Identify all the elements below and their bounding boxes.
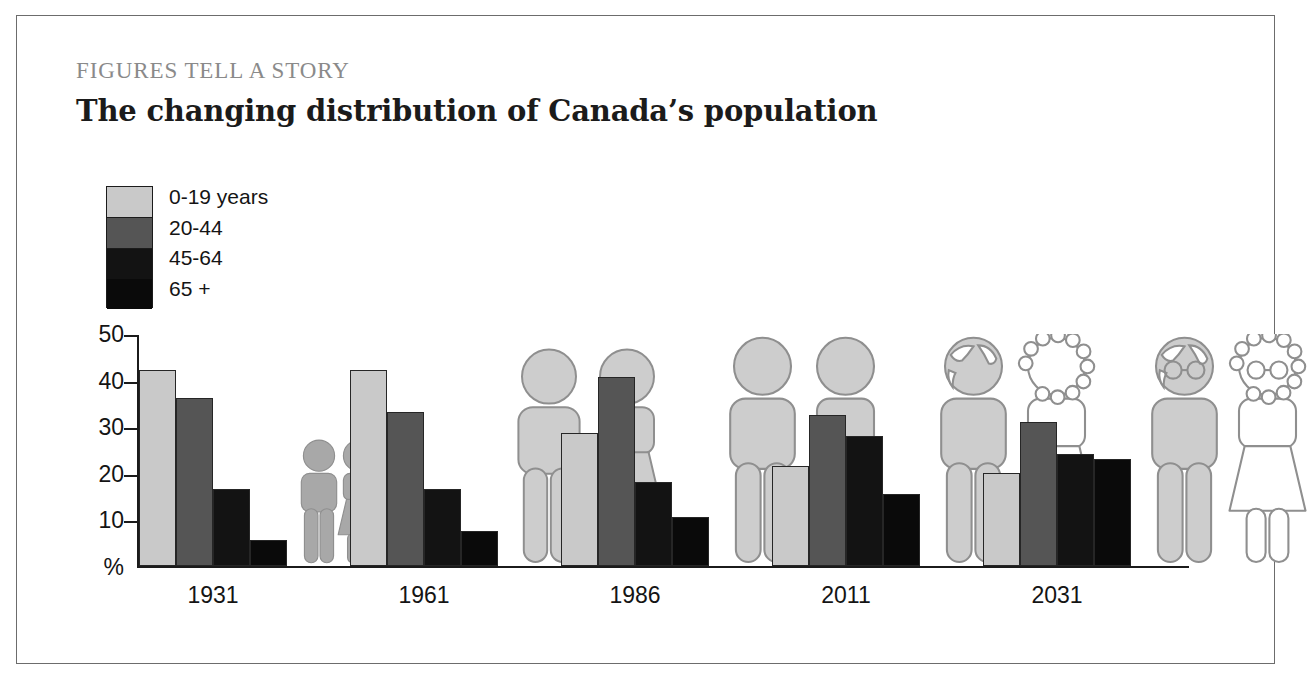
bar bbox=[1057, 454, 1094, 566]
x-axis-tick-label: 1986 bbox=[561, 582, 709, 609]
legend-swatch-45-64 bbox=[107, 249, 152, 279]
kicker-text: FIGURES TELL A STORY bbox=[76, 58, 350, 84]
y-axis-tick-label: 10 bbox=[80, 507, 124, 534]
legend-label-0-19: 0-19 years bbox=[169, 182, 268, 213]
legend-label-65-plus: 65 + bbox=[169, 274, 268, 305]
bar bbox=[176, 398, 213, 566]
y-axis-labels: 5040302010% bbox=[76, 330, 124, 570]
x-axis-tick-label: 2011 bbox=[772, 582, 920, 609]
bar-chart: 5040302010% 1931 1961 1986 bbox=[76, 330, 1196, 620]
bar bbox=[250, 540, 287, 566]
y-axis-tick-label: 40 bbox=[80, 368, 124, 395]
bar bbox=[1094, 459, 1131, 566]
bar bbox=[672, 517, 709, 566]
pictogram-male bbox=[1137, 334, 1232, 564]
legend-label-20-44: 20-44 bbox=[169, 213, 268, 244]
legend-swatch-65-plus bbox=[107, 279, 152, 309]
x-axis-tick-label: 1961 bbox=[350, 582, 498, 609]
bar bbox=[809, 415, 846, 566]
bar-group bbox=[561, 330, 764, 566]
y-axis-tick bbox=[124, 475, 138, 477]
chart-legend: 0-19 years 20-44 45-64 65 + bbox=[106, 186, 406, 308]
x-axis-tick-label: 2031 bbox=[983, 582, 1131, 609]
y-axis-tick bbox=[124, 382, 138, 384]
bar bbox=[213, 489, 250, 566]
legend-swatch-stack bbox=[106, 186, 153, 308]
y-axis-tick bbox=[124, 335, 138, 337]
page-title: The changing distribution of Canada’s po… bbox=[76, 94, 877, 128]
bar-group bbox=[350, 330, 553, 566]
legend-swatch-20-44 bbox=[107, 218, 152, 249]
bar bbox=[772, 466, 809, 566]
bar-groups: 1931 1961 1986 bbox=[137, 330, 1189, 568]
bar-group bbox=[983, 330, 1186, 566]
bar-group bbox=[139, 330, 342, 566]
bar bbox=[139, 370, 176, 566]
y-axis-tick bbox=[124, 521, 138, 523]
y-axis-tick-label: 30 bbox=[80, 414, 124, 441]
bar bbox=[387, 412, 424, 566]
y-axis-tick-label: 20 bbox=[80, 461, 124, 488]
bar bbox=[424, 489, 461, 566]
legend-swatch-0-19 bbox=[107, 187, 152, 218]
x-axis-tick-label: 1931 bbox=[139, 582, 287, 609]
bar bbox=[461, 531, 498, 566]
bar bbox=[598, 377, 635, 566]
y-axis-tick-label: % bbox=[80, 554, 124, 581]
y-axis-tick-label: 50 bbox=[80, 321, 124, 348]
pictogram-female bbox=[1220, 334, 1311, 564]
bar bbox=[883, 494, 920, 566]
bar-group bbox=[772, 330, 975, 566]
bar bbox=[1020, 422, 1057, 566]
bar bbox=[350, 370, 387, 566]
y-axis-tick bbox=[124, 428, 138, 430]
bar bbox=[635, 482, 672, 566]
bar bbox=[561, 433, 598, 566]
pictogram-pair bbox=[1137, 334, 1311, 564]
bar bbox=[983, 473, 1020, 566]
legend-label-list: 0-19 years 20-44 45-64 65 + bbox=[169, 182, 268, 304]
legend-label-45-64: 45-64 bbox=[169, 243, 268, 274]
bar bbox=[846, 436, 883, 566]
